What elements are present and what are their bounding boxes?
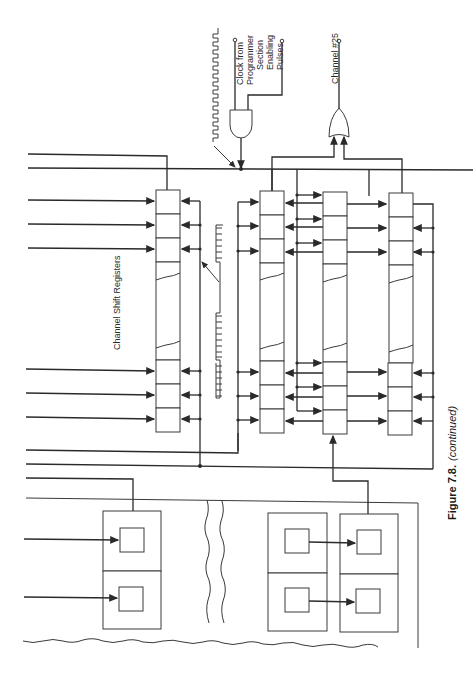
register-column-1 (156, 190, 180, 432)
memory-panel-left (24, 511, 161, 629)
clock-terminal (233, 38, 237, 42)
svg-text:Pulses: Pulses (275, 42, 285, 70)
bus-3 (26, 433, 238, 453)
figure-caption: Figure 7.8.(continued) (446, 406, 458, 520)
clock-pointer (214, 146, 235, 167)
section-terminal (280, 39, 284, 43)
torn-edge (23, 639, 378, 648)
register-column-4 (388, 193, 413, 435)
svg-text:Section: Section (255, 40, 265, 70)
bus-1 (28, 154, 167, 190)
and-gate (230, 110, 252, 138)
shift-register-diagram: Clock from Programmer Section Enabling P… (0, 0, 473, 685)
register-column-2 (260, 191, 284, 433)
clock-waveform (213, 28, 218, 142)
svg-text:Clock from: Clock from (235, 42, 245, 85)
bus-4 (26, 464, 433, 469)
svg-text:Enabling: Enabling (265, 35, 275, 70)
register-column-3 (323, 192, 347, 434)
svg-text:Figure 7.8.(continued): Figure 7.8.(continued) (446, 406, 458, 520)
left-inputs-bottom (26, 369, 154, 419)
bus-2 (28, 168, 473, 170)
svg-text:Programmer: Programmer (245, 35, 255, 85)
left-inputs-top (28, 200, 154, 249)
break-mark-right (220, 501, 225, 623)
shift-pulse-waveform (216, 225, 223, 398)
clock-label: Clock from Programmer (235, 35, 255, 85)
register-label: Channel Shift Registers (112, 255, 122, 350)
or-gate (329, 108, 349, 137)
break-mark-left (205, 500, 210, 623)
memory-panel-right-a (268, 513, 327, 631)
